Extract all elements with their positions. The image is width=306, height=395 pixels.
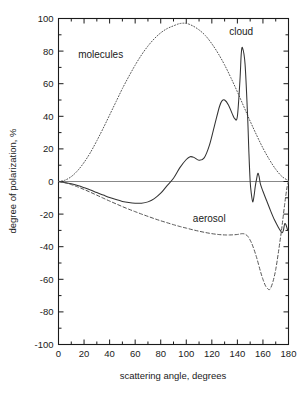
figure-background xyxy=(0,0,306,395)
chart-svg: 020406080100120140160180 -100-80-60-40-2… xyxy=(0,0,306,395)
x-tick-label: 140 xyxy=(229,348,245,359)
y-tick-label: -40 xyxy=(40,241,54,252)
series-label-molecules: molecules xyxy=(78,49,123,60)
x-axis-title: scattering angle, degrees xyxy=(120,370,227,381)
x-tick-label: 20 xyxy=(79,348,90,359)
x-tick-label: 180 xyxy=(281,348,297,359)
y-tick-label: -20 xyxy=(40,209,54,220)
x-tick-label: 120 xyxy=(204,348,220,359)
y-tick-label: -60 xyxy=(40,274,54,285)
x-tick-label: 40 xyxy=(104,348,115,359)
x-tick-label: 160 xyxy=(255,348,271,359)
y-axis-title: degree of polarization, % xyxy=(7,128,18,234)
y-tick-label: 100 xyxy=(38,13,54,24)
y-tick-label: -100 xyxy=(34,339,53,350)
y-tick-label: 20 xyxy=(43,143,54,154)
x-tick-label: 0 xyxy=(56,348,61,359)
y-tick-label: 80 xyxy=(43,46,54,57)
x-tick-label: 100 xyxy=(178,348,194,359)
polarization-chart-figure: 020406080100120140160180 -100-80-60-40-2… xyxy=(0,0,306,395)
x-tick-label: 60 xyxy=(130,348,141,359)
y-tick-label: 60 xyxy=(43,78,54,89)
y-tick-label: 0 xyxy=(48,176,53,187)
y-tick-label: -80 xyxy=(40,306,54,317)
y-tick-label: 40 xyxy=(43,111,54,122)
series-label-aerosol: aerosol xyxy=(193,213,226,224)
series-label-cloud: cloud xyxy=(229,26,253,37)
x-tick-label: 80 xyxy=(155,348,166,359)
